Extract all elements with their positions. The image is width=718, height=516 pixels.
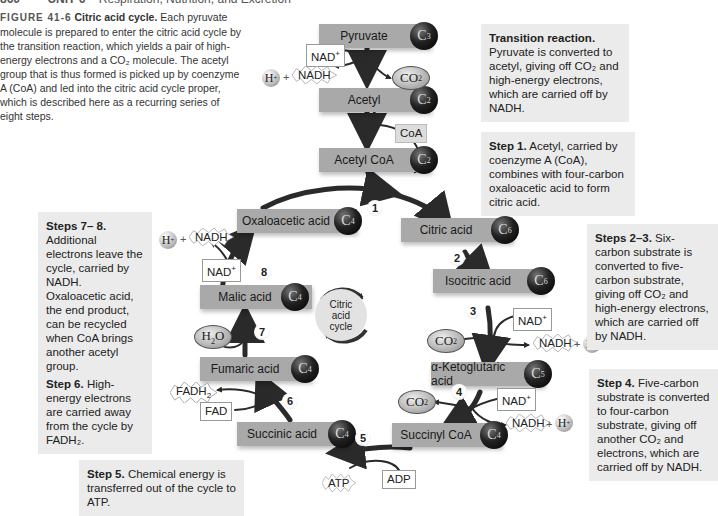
co2-oval-step3: CO2	[427, 329, 465, 353]
carbon-count-ball: C6	[527, 267, 555, 295]
carbon-count-ball: C4	[480, 421, 508, 449]
coa-box: CoA	[395, 124, 427, 143]
step-number-1: 1	[367, 200, 383, 216]
carbon-count-ball: C5	[524, 360, 552, 388]
step-number-8: 8	[256, 264, 272, 280]
molecule-label: Succinic acid	[247, 427, 317, 441]
molecule-label: Acetyl	[348, 93, 381, 107]
plus-sign: +	[283, 71, 289, 83]
plus-sign: +	[574, 338, 580, 350]
step-number-7: 7	[254, 324, 270, 340]
molecule-label: Fumaric acid	[211, 362, 280, 376]
info-step-6: Step 6. High-energy electrons are carrie…	[38, 370, 152, 454]
carbon-count-ball: C4	[328, 420, 356, 448]
fadh2-burst: FADH2	[170, 382, 217, 403]
nadh-burst: NADH	[292, 66, 337, 84]
hydrogen-ion-ball: H+	[555, 414, 573, 432]
nad-plus-box: NAD+	[306, 44, 345, 67]
molecule-label: Oxaloacetic acid	[242, 214, 330, 228]
nadh-burst-step3: NADH	[533, 334, 578, 352]
nad-plus-box-step8: NAD+	[202, 259, 241, 282]
adp-box: ADP	[382, 470, 416, 489]
step-number-2: 2	[449, 250, 465, 266]
carbon-count-ball: C2	[410, 86, 438, 114]
carbon-count-ball: C6	[491, 216, 519, 244]
atp-burst: ATP	[322, 474, 356, 492]
step-number-5: 5	[355, 430, 371, 446]
info-transition-reaction: Transition reaction.Pyruvate is converte…	[481, 24, 629, 122]
carbon-count-ball: C4	[281, 283, 309, 311]
nadh-burst-step4: NADH	[506, 414, 551, 432]
fad-box: FAD	[200, 402, 232, 421]
molecule-label: Malic acid	[218, 290, 271, 304]
info-step-4: Step 4. Five-carbon substrate is convert…	[589, 369, 718, 481]
citric-acid-cycle-center-label: Citricacidcycle	[315, 289, 367, 341]
hydrogen-ion-ball: H+	[262, 69, 280, 87]
plus-sign: +	[180, 233, 186, 245]
co2-oval: CO2	[392, 66, 430, 90]
plus-sign: +	[546, 418, 552, 430]
molecule-label: Succinyl CoA	[400, 428, 471, 442]
molecule-label: Isocitric acid	[445, 274, 511, 288]
molecule-label: Acetyl CoA	[334, 153, 393, 167]
molecule-label: α-Ketoglutaric acid	[431, 360, 523, 388]
info-steps-7-8: Steps 7– 8. Additional electrons leave t…	[38, 212, 152, 380]
info-step-1: Step 1. Acetyl, carried by coenzyme A (C…	[481, 132, 635, 216]
co2-oval-step4: CO2	[398, 390, 436, 414]
nadh-burst-step8: NADH	[189, 228, 234, 246]
carbon-count-ball: C3	[410, 22, 438, 50]
h2o-oval: H2O	[194, 325, 232, 349]
carbon-count-ball: C4	[334, 207, 362, 235]
molecule-label: Pyruvate	[340, 29, 387, 43]
step-number-4: 4	[451, 384, 467, 400]
carbon-count-ball: C2	[410, 146, 438, 174]
info-step-5: Step 5. Chemical energy is transferred o…	[79, 460, 244, 516]
info-steps-2-3: Steps 2–3. Six-carbon substrate is conve…	[587, 224, 718, 350]
hydrogen-ion-ball: H+	[159, 231, 177, 249]
nad-plus-box-step4: NAD+	[497, 388, 536, 411]
carbon-count-ball: C4	[291, 355, 319, 383]
step-number-3: 3	[465, 303, 481, 319]
molecule-label: Citric acid	[420, 223, 473, 237]
nad-plus-box-step3: NAD+	[513, 308, 552, 331]
step-number-6: 6	[282, 393, 298, 409]
